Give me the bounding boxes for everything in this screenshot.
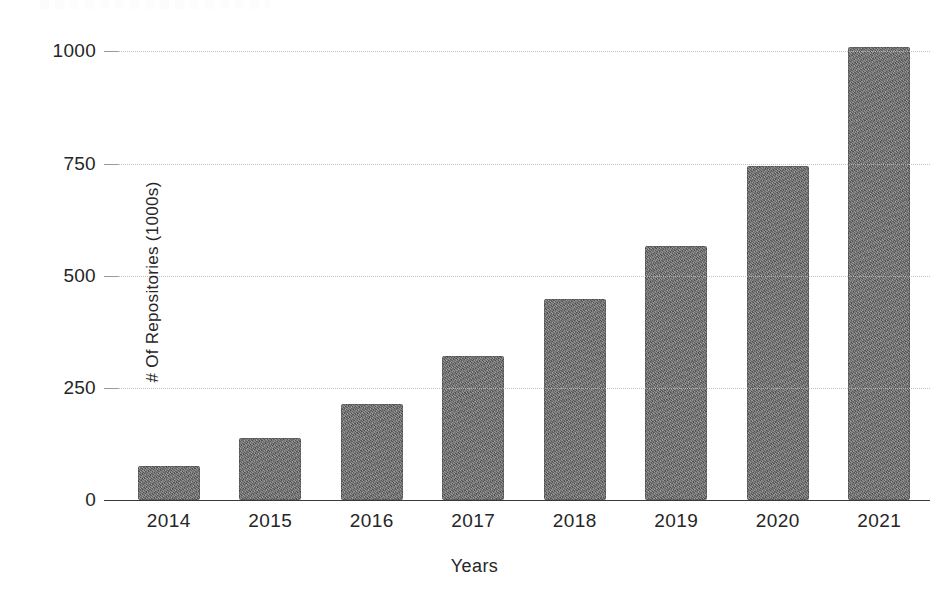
x-axis-tick-label: 2014 — [147, 510, 191, 532]
y-axis-tick — [104, 388, 118, 390]
y-axis-tick-label: 1000 — [53, 40, 96, 62]
y-axis-title: # Of Repositories (1000s) — [143, 117, 163, 447]
bar — [138, 466, 200, 500]
y-axis-tick — [104, 276, 118, 278]
gridline — [118, 51, 930, 53]
bar — [848, 47, 910, 500]
y-axis-tick-label: 500 — [63, 265, 96, 287]
scan-artifact — [40, 0, 270, 9]
bar — [442, 356, 504, 500]
x-axis-tick-label: 2020 — [756, 510, 800, 532]
y-axis-tick-label: 0 — [85, 489, 96, 511]
x-axis-tick-label: 2019 — [654, 510, 698, 532]
x-axis-tick-label: 2021 — [857, 510, 901, 532]
y-axis-tick — [104, 500, 118, 502]
bar-chart: 02505007501000 # Of Repositories (1000s)… — [0, 0, 949, 608]
bar — [341, 404, 403, 500]
y-axis-tick-label: 750 — [63, 153, 96, 175]
y-axis-tick — [104, 51, 118, 53]
x-axis-title: Years — [0, 556, 949, 577]
bar — [239, 438, 301, 500]
x-axis-baseline — [118, 500, 930, 502]
y-axis-tick — [104, 164, 118, 166]
x-axis-tick-label: 2018 — [553, 510, 597, 532]
bar — [747, 166, 809, 500]
plot-area: 02505007501000 — [118, 47, 930, 500]
gridline — [118, 388, 930, 390]
bar — [645, 246, 707, 500]
y-axis-tick-label: 250 — [63, 377, 96, 399]
x-axis-tick-label: 2015 — [248, 510, 292, 532]
gridline — [118, 164, 930, 166]
x-axis-tick-label: 2017 — [451, 510, 495, 532]
gridline — [118, 276, 930, 278]
bar — [544, 299, 606, 500]
x-axis-tick-label: 2016 — [350, 510, 394, 532]
bars-layer — [118, 47, 930, 500]
